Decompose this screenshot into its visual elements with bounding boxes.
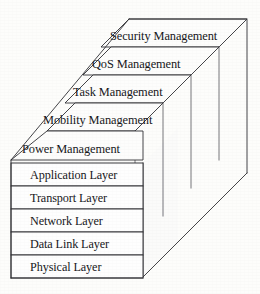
- management-plane-power: Power Management: [11, 131, 143, 160]
- protocol-layer-label-datalink: Data Link Layer: [30, 237, 109, 251]
- protocol-layer-label-physical: Physical Layer: [30, 260, 101, 274]
- management-label-mobility: Mobility Management: [43, 113, 153, 127]
- management-label-power: Power Management: [22, 142, 120, 156]
- protocol-layer-label-application: Application Layer: [30, 168, 117, 182]
- management-label-security: Security Management: [110, 29, 218, 43]
- management-label-task: Task Management: [73, 85, 163, 99]
- wsn-protocol-stack-figure: Security Management QoS Management Task …: [0, 0, 260, 294]
- protocol-layer-stack: Application Layer Transport Layer Networ…: [11, 163, 143, 278]
- protocol-layer-label-network: Network Layer: [30, 214, 103, 228]
- figure-svg: Security Management QoS Management Task …: [0, 0, 260, 294]
- protocol-layer-label-transport: Transport Layer: [30, 191, 107, 205]
- management-label-qos: QoS Management: [92, 57, 181, 71]
- front-box-right-side-face: [143, 128, 178, 277]
